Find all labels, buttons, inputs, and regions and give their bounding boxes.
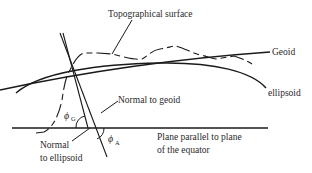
plane-label-line1: Plane parallel to plane (157, 132, 242, 142)
phi-a-subscript: A (115, 139, 120, 146)
plane-label-line2: of the equator (157, 145, 211, 155)
normal-to-ellipsoid-leader (72, 128, 90, 141)
normal-to-ellipsoid-label-line2: to ellipsoid (40, 153, 83, 163)
geoid-line (0, 52, 270, 90)
geodesy-diagram: Topographical surface Geoid ellipsoid No… (0, 0, 312, 173)
normal-to-geoid-leader (101, 101, 118, 113)
ellipsoid-curve (16, 63, 266, 93)
diagram-canvas: Topographical surface Geoid ellipsoid No… (0, 0, 312, 173)
normal-to-geoid-line (60, 33, 107, 157)
geoid-label: Geoid (272, 47, 295, 57)
normal-to-ellipsoid-label-line1: Normal (40, 140, 69, 150)
normal-to-geoid-label: Normal to geoid (118, 95, 181, 105)
phi-g-symbol: ϕ (64, 110, 69, 121)
topographical-surface-label: Topographical surface (108, 9, 193, 19)
phi-g-subscript: G (71, 115, 76, 122)
phi-a-symbol: ϕ (108, 133, 113, 144)
topographical-surface-leader (112, 20, 132, 54)
phi-g-angle-arc (76, 116, 85, 128)
ellipsoid-label: ellipsoid (268, 88, 301, 98)
